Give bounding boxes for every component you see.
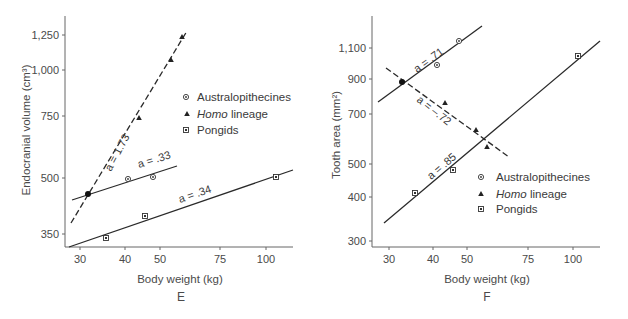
points-australopithecines-e [85, 174, 156, 197]
y-axis-title-f: Tooth area (mm²) [330, 91, 342, 179]
y-tick-label: 700 [348, 108, 366, 120]
slope-label-australopithecines-f: a = .71 [411, 45, 446, 75]
legend-e: Australopithecines Homo lineage Pongids [183, 91, 291, 136]
figure: 1,250 1,000 750 500 350 30 40 50 75 100 … [0, 0, 628, 319]
panel-label-e: E [177, 290, 185, 304]
x-tick-label: 75 [522, 253, 534, 265]
x-ticks-f: 30 40 50 75 100 [383, 247, 582, 265]
x-tick-label: 50 [461, 253, 473, 265]
y-tick-label: 900 [348, 73, 366, 85]
legend-item-australopithecines: Australopithecines [496, 171, 590, 183]
x-axis-title-f: Body weight (kg) [444, 273, 530, 285]
legend-item-australopithecines: Australopithecines [197, 91, 291, 103]
legend-item-homo: Homo lineage [496, 188, 567, 200]
y-tick-label: 1,000 [31, 64, 59, 76]
y-tick-label: 1,100 [338, 42, 366, 54]
fit-line-pongids-e [69, 170, 293, 247]
x-tick-label: 100 [564, 253, 582, 265]
slope-label-pongids-f: a = .85 [425, 151, 459, 182]
x-axis-title-e: Body weight (kg) [137, 273, 223, 285]
points-homo-f [442, 100, 490, 149]
legend-item-homo: Homo lineage [197, 108, 268, 120]
legend-f: Australopithecines Homo lineage Pongids [478, 171, 590, 215]
y-ticks-f: 1,100 900 700 500 400 300 [338, 42, 372, 247]
x-tick-label: 100 [257, 253, 275, 265]
points-homo-e [136, 34, 185, 120]
panel-label-f: F [483, 290, 490, 304]
y-tick-label: 750 [41, 110, 59, 122]
chart-e: 1,250 1,000 750 500 350 30 40 50 75 100 … [20, 16, 293, 304]
x-tick-label: 50 [154, 253, 166, 265]
slope-label-homo-e: a = 1.73 [102, 132, 131, 173]
y-tick-label: 300 [348, 235, 366, 247]
y-tick-label: 400 [348, 191, 366, 203]
x-tick-label: 75 [214, 253, 226, 265]
slope-label-australopithecines-e: a = .33 [136, 149, 172, 170]
y-axis-title-e: Endocranial volume (cm³) [20, 64, 32, 195]
legend-item-pongids: Pongids [197, 124, 239, 136]
x-tick-label: 40 [119, 253, 131, 265]
y-tick-label: 500 [348, 158, 366, 170]
chart-f: 1,100 900 700 500 400 300 30 40 50 75 10… [330, 16, 600, 304]
slope-label-homo-f: a = –.72 [415, 93, 454, 127]
y-tick-label: 1,250 [31, 29, 59, 41]
slope-label-pongids-e: a = .34 [177, 182, 213, 204]
y-tick-label: 500 [41, 172, 59, 184]
legend-item-pongids: Pongids [496, 203, 538, 215]
y-ticks-e: 1,250 1,000 750 500 350 [31, 29, 65, 240]
x-tick-label: 40 [427, 253, 439, 265]
x-ticks-e: 30 40 50 75 100 [74, 247, 275, 265]
y-tick-label: 350 [41, 228, 59, 240]
x-tick-label: 30 [383, 253, 395, 265]
x-tick-label: 30 [74, 253, 86, 265]
